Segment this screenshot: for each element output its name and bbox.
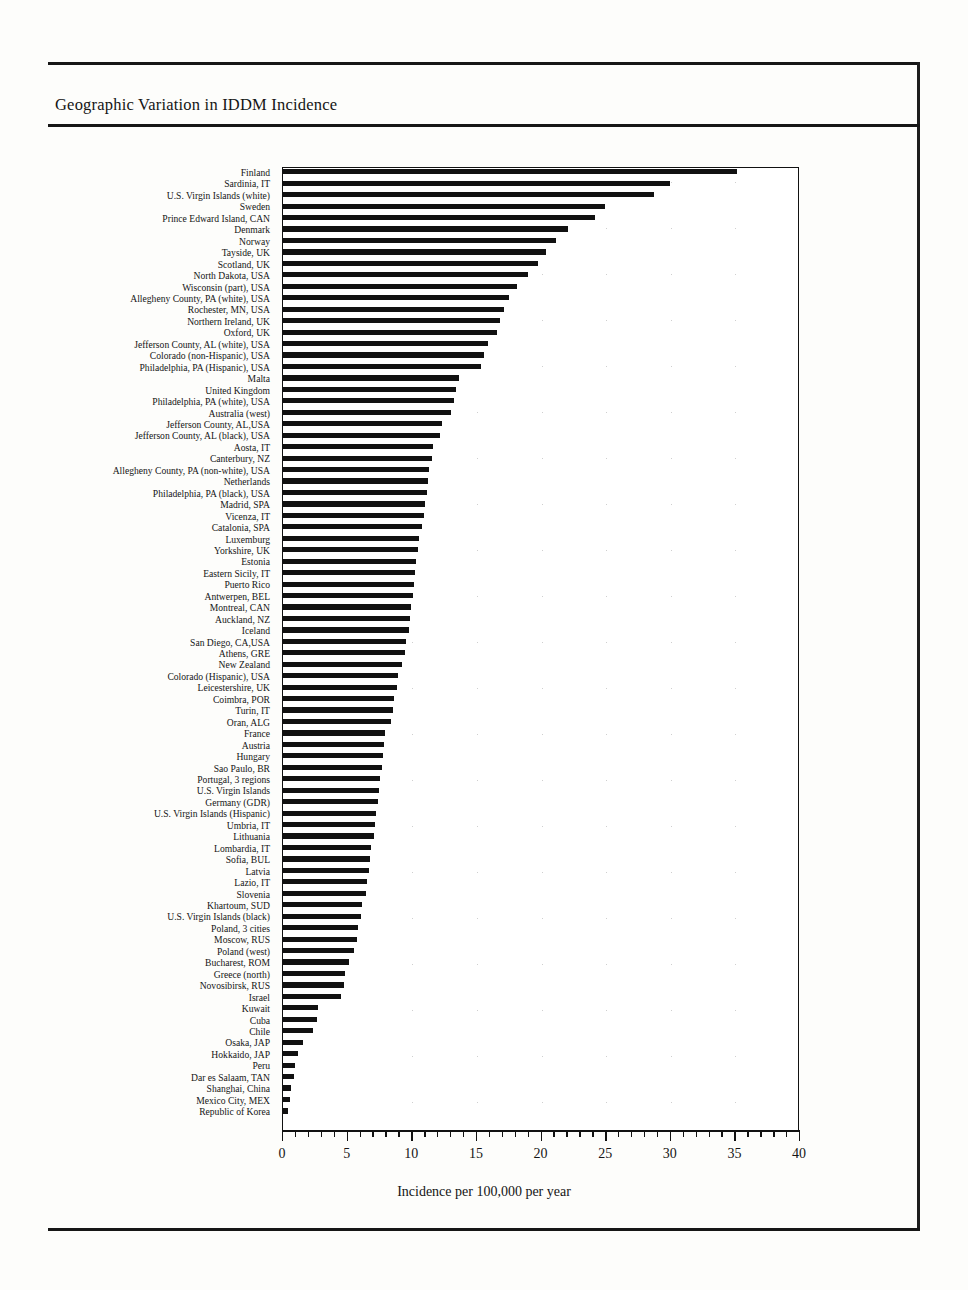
x-tick-minor	[450, 1130, 451, 1137]
bar	[282, 914, 361, 919]
x-tick-minor	[334, 1130, 335, 1137]
bar-row	[282, 671, 799, 682]
x-tick-major	[282, 1130, 283, 1141]
category-label: North Dakota, USA	[0, 270, 276, 281]
category-label: Khartoum, SUD	[0, 900, 276, 911]
x-tick-minor	[773, 1130, 774, 1137]
bar-row	[282, 682, 799, 693]
bar	[282, 994, 341, 999]
category-label: Yorkshire, UK	[0, 545, 276, 556]
x-tick-minor	[308, 1130, 309, 1137]
bar-row	[282, 843, 799, 854]
x-tick-major	[670, 1130, 671, 1141]
category-label: Leicestershire, UK	[0, 682, 276, 693]
bar-row	[282, 1037, 799, 1048]
bar-row	[282, 1083, 799, 1094]
bar	[282, 352, 484, 357]
bar	[282, 673, 398, 678]
bar-row	[282, 339, 799, 350]
bar-row	[282, 488, 799, 499]
category-label: Madrid, SPA	[0, 499, 276, 510]
bar-row	[282, 522, 799, 533]
category-label: Jefferson County, AL,USA	[0, 419, 276, 430]
bar	[282, 547, 418, 552]
bar-row	[282, 396, 799, 407]
bar	[282, 398, 454, 403]
x-tick-minor	[566, 1130, 567, 1137]
bar	[282, 318, 500, 323]
bar-row	[282, 362, 799, 373]
bar	[282, 891, 366, 896]
x-tick-minor	[696, 1130, 697, 1137]
bar-row	[282, 602, 799, 613]
x-tick-label: 25	[598, 1146, 612, 1162]
category-label: U.S. Virgin Islands (black)	[0, 911, 276, 922]
bar	[282, 685, 397, 690]
bar-row	[282, 648, 799, 659]
bar-row	[282, 190, 799, 201]
bar	[282, 284, 517, 289]
bar	[282, 238, 556, 243]
x-tick-minor	[709, 1130, 710, 1137]
category-label: Jefferson County, AL (white), USA	[0, 339, 276, 350]
category-label: Allegheny County, PA (non-white), USA	[0, 465, 276, 476]
category-label: Greece (north)	[0, 969, 276, 980]
x-tick-minor	[437, 1130, 438, 1137]
category-label: Coimbra, POR	[0, 694, 276, 705]
x-tick-label: 5	[343, 1146, 350, 1162]
bar-row	[282, 293, 799, 304]
x-tick-minor	[657, 1130, 658, 1137]
bar-row	[282, 934, 799, 945]
x-tick-minor	[321, 1130, 322, 1137]
x-tick-minor	[631, 1130, 632, 1137]
x-tick-minor	[618, 1130, 619, 1137]
bar-row	[282, 1003, 799, 1014]
x-tick-minor	[489, 1130, 490, 1137]
bar-row	[282, 167, 799, 178]
bar-row	[282, 178, 799, 189]
category-label: Sardinia, IT	[0, 178, 276, 189]
category-label: Scotland, UK	[0, 259, 276, 270]
category-label: Netherlands	[0, 476, 276, 487]
bar-series	[282, 167, 799, 1130]
bar-row	[282, 751, 799, 762]
bar-row	[282, 969, 799, 980]
x-tick-minor	[424, 1130, 425, 1137]
bar-row	[282, 992, 799, 1003]
bar	[282, 902, 362, 907]
category-label: Shanghai, China	[0, 1083, 276, 1094]
bar	[282, 593, 413, 598]
category-label: France	[0, 728, 276, 739]
x-tick-label: 10	[404, 1146, 418, 1162]
bar	[282, 753, 383, 758]
bar	[282, 1063, 295, 1068]
bar-row	[282, 659, 799, 670]
bar	[282, 799, 378, 804]
x-tick-minor	[372, 1130, 373, 1137]
category-label: Aosta, IT	[0, 442, 276, 453]
x-tick-major	[605, 1130, 606, 1141]
x-tick-minor	[528, 1130, 529, 1137]
bar	[282, 456, 432, 461]
bar-row	[282, 568, 799, 579]
category-label: Kuwait	[0, 1003, 276, 1014]
bar-row	[282, 408, 799, 419]
bar-row	[282, 316, 799, 327]
bar	[282, 662, 402, 667]
category-label: Norway	[0, 236, 276, 247]
category-label: Lombardia, IT	[0, 843, 276, 854]
x-tick-major	[541, 1130, 542, 1141]
category-label: Colorado (Hispanic), USA	[0, 671, 276, 682]
category-label: United Kingdom	[0, 385, 276, 396]
category-label: San Diego, CA,USA	[0, 637, 276, 648]
category-label: Poland, 3 cities	[0, 923, 276, 934]
bar-row	[282, 373, 799, 384]
bar	[282, 959, 349, 964]
category-label: Estonia	[0, 556, 276, 567]
category-label: Philadelphia, PA (Hispanic), USA	[0, 362, 276, 373]
category-label: Philadelphia, PA (white), USA	[0, 396, 276, 407]
x-tick-minor	[721, 1130, 722, 1137]
bar-row	[282, 1095, 799, 1106]
bar	[282, 707, 393, 712]
bar	[282, 627, 409, 632]
